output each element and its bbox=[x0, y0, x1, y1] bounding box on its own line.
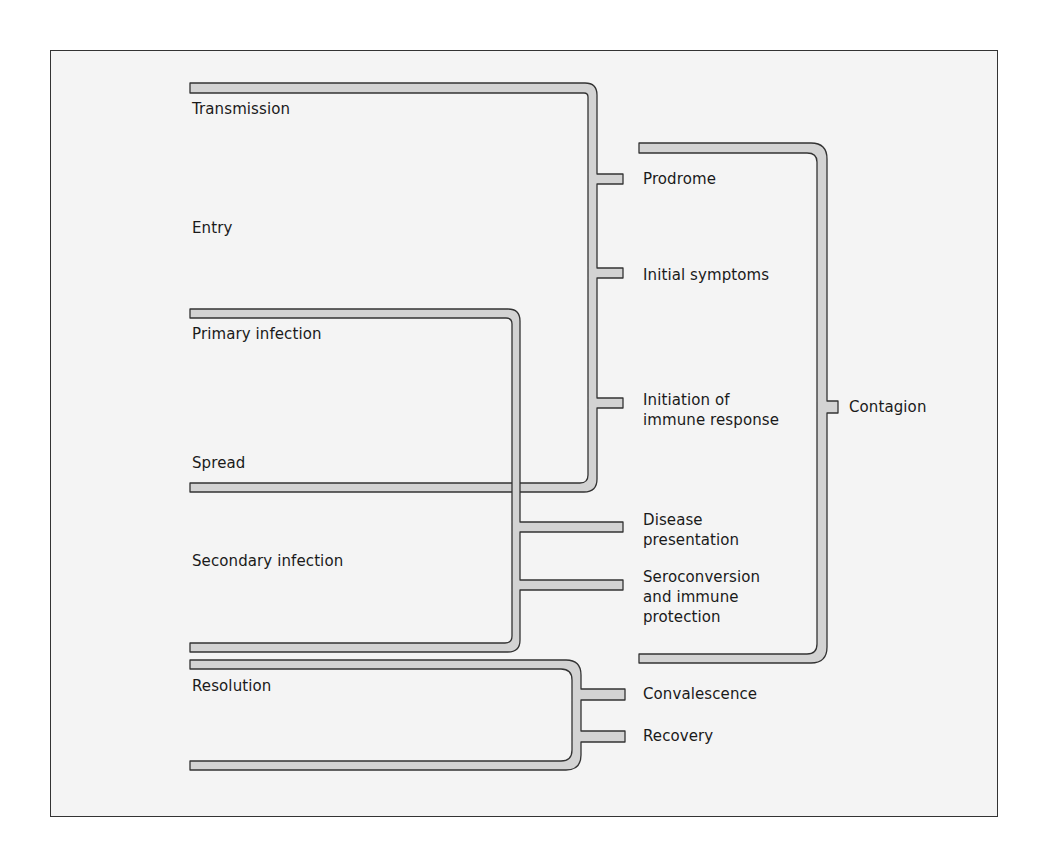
bracket-connectors bbox=[0, 0, 1046, 857]
stage-resolution: Resolution bbox=[192, 676, 271, 696]
outcome-initiation-immune-response: Initiation of immune response bbox=[643, 390, 779, 430]
outcome-prodrome: Prodrome bbox=[643, 169, 716, 189]
outcome-seroconversion: Seroconversion and immune protection bbox=[643, 567, 760, 627]
outcome-disease-presentation: Disease presentation bbox=[643, 510, 739, 550]
stage-secondary-infection: Secondary infection bbox=[192, 551, 343, 571]
outcome-recovery: Recovery bbox=[643, 726, 713, 746]
bracket-transmission-spread bbox=[190, 83, 623, 492]
stage-spread: Spread bbox=[192, 453, 245, 473]
outcome-contagion: Contagion bbox=[849, 397, 927, 417]
stage-transmission: Transmission bbox=[192, 99, 290, 119]
outcome-convalescence: Convalescence bbox=[643, 684, 757, 704]
bracket-primary-secondary bbox=[190, 309, 623, 652]
stage-primary-infection: Primary infection bbox=[192, 324, 322, 344]
outcome-initial-symptoms: Initial symptoms bbox=[643, 265, 769, 285]
stage-entry: Entry bbox=[192, 218, 232, 238]
